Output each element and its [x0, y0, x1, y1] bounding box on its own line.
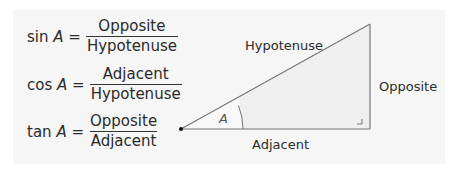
- angle-label: A: [219, 111, 228, 126]
- adjacent-label: Adjacent: [252, 137, 309, 152]
- opposite-label: Opposite: [379, 79, 437, 94]
- vertex-point: [179, 127, 183, 131]
- hypotenuse-label: Hypotenuse: [245, 38, 323, 53]
